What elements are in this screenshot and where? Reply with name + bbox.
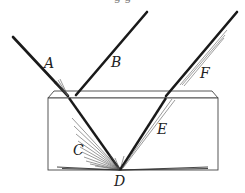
label-a: A (44, 56, 54, 70)
ray-a (13, 37, 68, 96)
label-e: E (157, 122, 167, 136)
label-b: B (111, 55, 121, 69)
ray-f (166, 12, 237, 96)
label-c: C (73, 143, 84, 157)
label-d: D (114, 174, 125, 188)
glass-block-diagram (0, 0, 245, 193)
label-f: F (200, 66, 210, 80)
